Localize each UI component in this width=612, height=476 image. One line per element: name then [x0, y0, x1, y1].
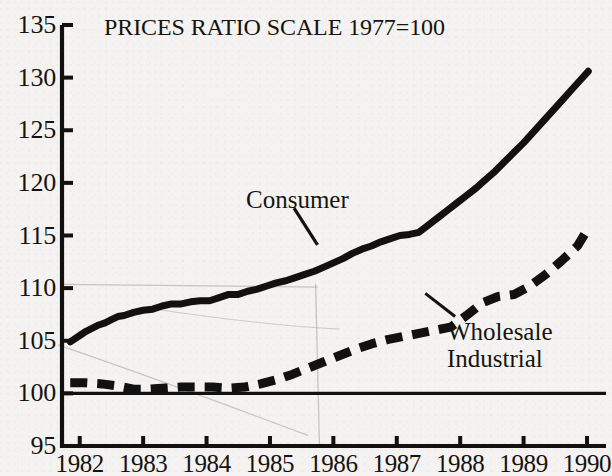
- chart-title: PRICES RATIO SCALE 1977=100: [104, 14, 445, 41]
- series-label-wholesale-line1: Wholesale: [447, 318, 553, 345]
- axis-layer: [62, 25, 606, 446]
- x-axis-tick-label: 1985: [235, 451, 305, 476]
- y-axis-tick-label: 105: [0, 328, 56, 354]
- y-axis-tick-label: 110: [0, 275, 56, 301]
- y-axis-tick-label: 135: [0, 12, 56, 38]
- x-axis-tick-label: 1987: [362, 451, 432, 476]
- scan-artifact-layer: [58, 284, 340, 444]
- y-axis-tick-label: 125: [0, 117, 56, 143]
- x-axis-tick-label: 1989: [489, 451, 559, 476]
- series-label-wholesale: Wholesale Industrial: [447, 318, 553, 372]
- x-axis-tick-label: 1990: [552, 451, 612, 476]
- x-axis-tick-label: 1986: [298, 451, 368, 476]
- x-axis-tick-label: 1983: [108, 451, 178, 476]
- price-index-chart-figure: PRICES RATIO SCALE 1977=100 135130125120…: [0, 0, 612, 476]
- leader-line-wholesale: [425, 293, 455, 316]
- y-axis-tick-label: 120: [0, 170, 56, 196]
- axis-spines: [62, 25, 606, 446]
- x-axis-tick-label: 1982: [45, 451, 115, 476]
- chart-plot-area: [0, 0, 612, 476]
- y-axis-tick-label: 130: [0, 65, 56, 91]
- y-axis-tick-label: 115: [0, 223, 56, 249]
- leader-line-consumer: [294, 208, 317, 245]
- series-label-consumer: Consumer: [246, 186, 349, 213]
- series-label-wholesale-line2: Industrial: [447, 345, 553, 372]
- scan-artifact-curve2: [156, 309, 340, 329]
- x-axis-tick-label: 1984: [172, 451, 242, 476]
- x-axis-tick-label: 1988: [425, 451, 495, 476]
- y-axis-tick-label: 100: [0, 380, 56, 406]
